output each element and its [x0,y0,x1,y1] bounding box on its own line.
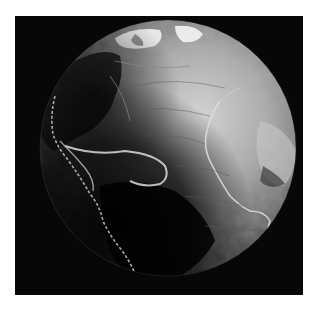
globe-image [15,16,303,295]
globe [15,16,303,295]
image-frame [15,16,303,295]
